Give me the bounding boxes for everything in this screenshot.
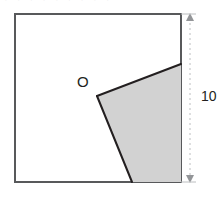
figure-canvas — [0, 0, 223, 200]
side-length-label: 10 — [201, 89, 217, 103]
point-o-label: O — [77, 74, 89, 89]
geometry-figure: · · · · · · · · · O 10 — [0, 0, 223, 200]
